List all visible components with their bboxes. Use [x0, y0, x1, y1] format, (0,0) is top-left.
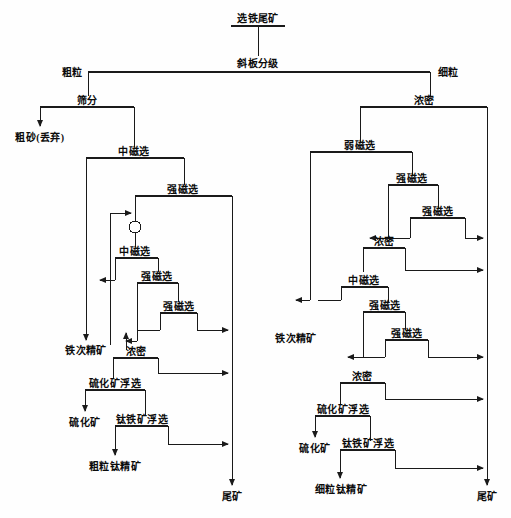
node-r-sulf-flot: 硫化矿浮选 [317, 404, 369, 415]
node-r-thicken-3: 浓密 [352, 371, 373, 382]
node-l-ti-flot: 钛铁矿浮选 [116, 414, 168, 425]
product-l-fe-second: 铁次精矿 [65, 345, 107, 356]
product-l-tailings: 尾矿 [222, 491, 243, 502]
product-l-sulfide: 硫化矿 [69, 417, 100, 428]
node-l-midmag-2: 中磁选 [119, 246, 150, 257]
flowsheet-canvas: 选铁尾矿 斜板分级 粗粒 细粒 筛分 中磁选 强磁选 中磁选 强磁选 强磁选 浓… [0, 0, 511, 518]
node-l-midmag-1: 中磁选 [118, 146, 149, 157]
node-r-ti-flot: 钛铁矿浮选 [342, 438, 394, 449]
feed-label: 选铁尾矿 [237, 13, 279, 24]
node-r-lowmag: 弱磁选 [344, 140, 375, 151]
node-l-sulf-flot: 硫化矿浮选 [89, 378, 141, 389]
node-l-thicken: 浓密 [126, 346, 147, 357]
node-l-highmag-1: 强磁选 [167, 184, 198, 195]
node-r-highmag-1: 强磁选 [396, 173, 427, 184]
node-l-highmag-3: 强磁选 [163, 301, 194, 312]
node-l-screen: 筛分 [77, 95, 98, 106]
node-r-highmag-2: 强磁选 [422, 206, 453, 217]
coarse-stream-label: 粗粒 [62, 67, 83, 78]
product-l-ti-conc: 粗粒钛精矿 [89, 461, 141, 472]
node-r-midmag: 中磁选 [348, 275, 379, 286]
product-r-fe-second: 铁次精矿 [275, 333, 317, 344]
product-r-tailings: 尾矿 [477, 491, 498, 502]
node-r-highmag-4: 强磁选 [391, 328, 422, 339]
fine-stream-label: 细粒 [438, 67, 459, 78]
node-r-thicken-1: 浓密 [414, 95, 435, 106]
node-l-highmag-2: 强磁选 [141, 271, 172, 282]
node-r-thicken-2: 浓密 [374, 236, 395, 247]
node-r-highmag-3: 强磁选 [369, 300, 400, 311]
classifier-label: 斜板分级 [237, 58, 279, 69]
product-r-ti-conc: 细粒钛精矿 [315, 484, 367, 495]
product-r-sulfide: 硫化矿 [299, 443, 330, 454]
product-l-coarse-sand: 粗砂(丢弃) [15, 132, 64, 143]
